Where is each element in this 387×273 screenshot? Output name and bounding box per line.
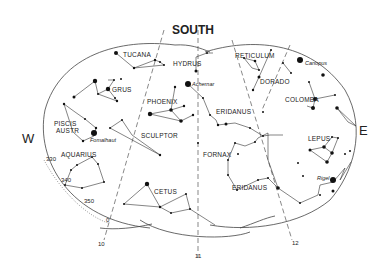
star-canopus <box>297 57 303 63</box>
direction-west: W <box>22 131 35 146</box>
label-eridanus-upper: ERIDANUS <box>216 108 252 115</box>
east-boundary-arc <box>205 45 356 228</box>
direction-east: E <box>359 123 368 138</box>
hour-label-12: 12 <box>292 240 299 246</box>
label-grus: GRUS <box>112 86 132 93</box>
label-tucana: TUCANA <box>123 51 151 58</box>
constellation-labels: TUCANA HYDRUS RETICULUM DORADO GRUS PHOE… <box>54 51 331 195</box>
label-achernar: Achernar <box>191 81 215 87</box>
label-piscis-austr-2: AUSTR <box>56 127 79 134</box>
ecliptic-tick-350: 350 <box>84 198 95 204</box>
hour-label-11: 11 <box>195 253 202 259</box>
chart-title: SOUTH <box>172 23 214 37</box>
label-canopus: Canopus <box>305 60 327 66</box>
stars <box>63 49 351 214</box>
label-eridanus-lower: ERIDANUS <box>232 184 268 191</box>
hour-label-10: 10 <box>98 241 105 247</box>
label-hydrus: HYDRUS <box>173 60 202 67</box>
star-fomalhaut <box>91 130 97 136</box>
label-aquarius: AQUARIUS <box>61 151 97 159</box>
star-rigel <box>330 177 336 183</box>
label-piscis-austr-1: PISCIS <box>54 120 77 127</box>
bottom-arc-right <box>240 216 275 228</box>
label-dorado: DORADO <box>260 78 290 85</box>
star-achernar <box>185 81 191 87</box>
label-sculptor: SCULPTOR <box>141 132 178 139</box>
label-fornax: FORNAX <box>203 151 232 158</box>
label-rigel: Rigel <box>317 175 330 181</box>
star-chart: SOUTH W E 10 11 12 330 340 350 0 <box>0 0 387 273</box>
ecliptic-tick-330: 330 <box>46 156 57 162</box>
label-reticulum: RETICULUM <box>235 52 275 59</box>
bottom-arc <box>140 220 250 237</box>
label-lepus: LEPUS <box>308 135 331 142</box>
top-arc <box>175 45 210 52</box>
label-phoenix: PHOENIX <box>147 98 178 105</box>
label-fomalhaut: Fomalhaut <box>90 137 116 143</box>
label-colomba: COLOMBA <box>285 96 319 103</box>
label-cetus: CETUS <box>154 188 177 195</box>
